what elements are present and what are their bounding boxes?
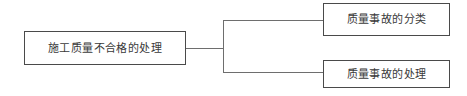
node-root: 施工质量不合格的处理 [24,31,186,65]
node-child-quality-accident-classification: 质量事故的分类 [323,3,450,36]
node-child-0-label: 质量事故的分类 [347,14,427,25]
diagram-canvas: 施工质量不合格的处理 质量事故的分类 质量事故的处理 [0,0,467,96]
node-child-1-label: 质量事故的处理 [347,69,427,80]
connector-root-stub [186,48,223,49]
node-root-label: 施工质量不合格的处理 [48,43,162,54]
connector-branch-to-child-1 [223,72,323,73]
connector-branch-to-child-0 [223,20,323,21]
node-child-quality-accident-handling: 质量事故的处理 [323,60,450,88]
connector-vertical-trunk [223,20,224,72]
